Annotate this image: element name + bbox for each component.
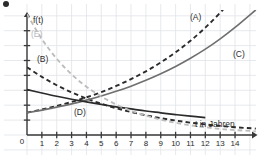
chart-figure: 1234567891011121314 (A)(B)(C)(D)(E) f(t)… — [0, 0, 258, 159]
x-tick-label-6: 6 — [108, 140, 124, 148]
y-axis-label: f(t) — [33, 16, 43, 25]
curve-label-c: (C) — [233, 50, 245, 59]
curve-label-d: (D) — [74, 108, 86, 117]
x-tick-label-2: 2 — [49, 140, 65, 148]
data-curves — [27, 0, 256, 131]
x-tick-label-3: 3 — [64, 140, 80, 148]
origin-label: 0 — [17, 138, 27, 146]
x-tick-label-10: 10 — [168, 140, 184, 148]
curve-e — [27, 14, 256, 131]
x-tick-label-1: 1 — [34, 140, 50, 148]
curve-label-b: (B) — [37, 55, 48, 64]
x-tick-label-7: 7 — [123, 140, 139, 148]
curve-label-a: (A) — [190, 13, 201, 22]
x-tick-label-12: 12 — [197, 140, 213, 148]
x-axis-label: t in Jahren — [195, 120, 235, 129]
x-tick-label-9: 9 — [153, 140, 169, 148]
x-tick-label-14: 14 — [227, 140, 243, 148]
x-tick-label-8: 8 — [138, 140, 154, 148]
curve-label-e: (E) — [31, 30, 42, 39]
x-tick-label-11: 11 — [182, 140, 198, 148]
x-tick-label-5: 5 — [93, 140, 109, 148]
x-tick-label-4: 4 — [78, 140, 94, 148]
x-tick-label-13: 13 — [212, 140, 228, 148]
curve-a — [27, 0, 256, 113]
